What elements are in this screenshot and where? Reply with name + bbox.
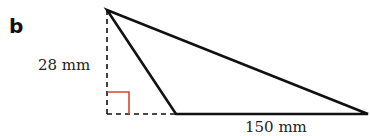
- right-angle-marker: [107, 92, 129, 114]
- height-label: 28 mm: [38, 56, 90, 74]
- triangle: [107, 10, 368, 114]
- base-label: 150 mm: [245, 118, 307, 136]
